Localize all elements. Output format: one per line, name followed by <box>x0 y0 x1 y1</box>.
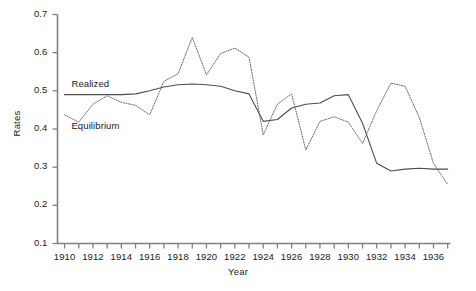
series-line-realized <box>65 84 448 171</box>
series-label-realized: Realized <box>71 78 109 89</box>
y-tick-label: 0.6 <box>14 46 48 57</box>
x-tick-label: 1936 <box>413 251 453 262</box>
series-label-equilibrium: Equilibrium <box>71 120 119 131</box>
chart-plot-area <box>0 0 476 291</box>
y-tick-label: 0.2 <box>14 198 48 209</box>
x-axis-label: Year <box>0 266 476 277</box>
y-tick-label: 0.7 <box>14 8 48 19</box>
chart-axes <box>53 15 451 249</box>
y-tick-label: 0.3 <box>14 160 48 171</box>
chart-series-lines <box>65 37 448 184</box>
y-tick-label: 0.1 <box>14 237 48 248</box>
chart-figure: Rates Year 0.10.20.30.40.50.60.7 1910191… <box>0 0 476 291</box>
series-line-equilibrium <box>65 37 448 184</box>
y-tick-label: 0.4 <box>14 122 48 133</box>
y-tick-label: 0.5 <box>14 84 48 95</box>
